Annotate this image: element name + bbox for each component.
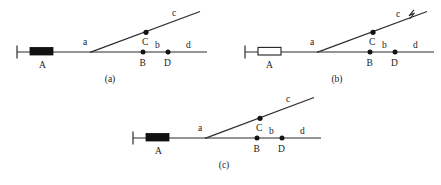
panel-a-caption: (a): [105, 74, 116, 85]
panel-b-label-point-d: D: [391, 58, 398, 68]
panel-a-point-d-dot: [166, 50, 171, 55]
panel-b-label-block-a: A: [266, 60, 273, 70]
panel-a-label-point-d: D: [164, 58, 171, 68]
panel-b-point-c-dot: [370, 30, 375, 35]
panel-c-caption: (c): [219, 160, 230, 171]
panel-c-label-point-c: C: [256, 123, 262, 133]
panel-c-label-point-b: B: [254, 144, 260, 154]
panel-a-label-segment-a: a: [83, 37, 88, 47]
panel-b-label-segment-b: b: [382, 40, 387, 50]
panel-b-caption: (b): [331, 74, 342, 85]
panel-a-label-segment-d: d: [186, 40, 191, 50]
panel-c-point-c-dot: [257, 116, 262, 121]
diagram-canvas: a b c d A B C D (a) a b c d A: [0, 0, 441, 185]
panel-c-label-segment-b: b: [269, 126, 274, 136]
panel-c-label-segment-a: a: [198, 123, 203, 133]
panel-b-label-segment-c: c: [396, 9, 400, 19]
panel-c-label-block-a: A: [155, 146, 162, 156]
panel-c-block-a: [146, 133, 169, 141]
panel-b-block-a: [258, 47, 281, 55]
panel-a-block-a: [30, 47, 53, 55]
panel-c-label-segment-d: d: [300, 126, 305, 136]
panel-a-label-point-c: C: [142, 37, 148, 47]
panel-a: a b c d A B C D (a): [17, 8, 207, 85]
panel-c-label-point-d: D: [278, 144, 285, 154]
panel-b-label-point-c: C: [369, 37, 375, 47]
figure-root: a b c d A B C D (a) a b c d A: [0, 0, 441, 185]
panel-c: a b c d A B C D (c): [133, 94, 321, 171]
panel-a-point-c-dot: [143, 30, 148, 35]
panel-b: a b c d A B C D (b): [245, 9, 434, 85]
panel-c-point-d-dot: [280, 136, 285, 141]
panel-a-label-segment-c: c: [172, 8, 176, 18]
panel-b-label-segment-a: a: [310, 37, 315, 47]
panel-b-label-point-b: B: [367, 58, 373, 68]
panel-c-label-segment-c: c: [286, 94, 290, 104]
panel-b-point-d-dot: [393, 50, 398, 55]
panel-c-point-b-dot: [255, 136, 260, 141]
panel-a-label-block-a: A: [39, 60, 46, 70]
panel-b-label-segment-d: d: [413, 40, 418, 50]
panel-b-point-b-dot: [368, 50, 373, 55]
panel-a-label-segment-b: b: [155, 40, 160, 50]
panel-a-label-point-b: B: [140, 58, 146, 68]
panel-a-point-b-dot: [141, 50, 146, 55]
